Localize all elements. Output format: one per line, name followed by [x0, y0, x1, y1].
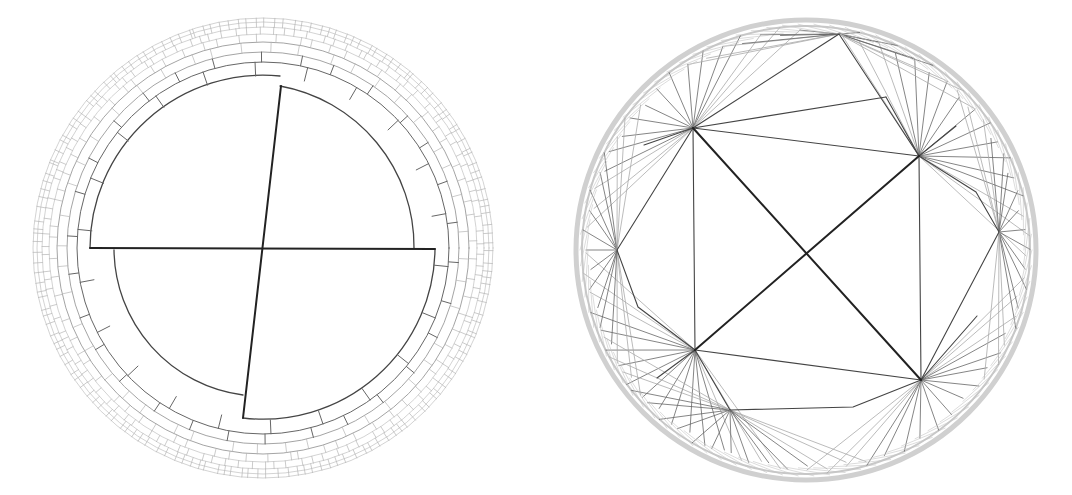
outer-boundary-inner: [582, 26, 1030, 474]
outer-boundary: [576, 20, 1036, 480]
triangulated-disk-diagram: [536, 0, 1072, 495]
triangulated-disk-svg: [536, 0, 1072, 495]
radial-partition-diagram: [0, 0, 536, 495]
main-dividers: [90, 86, 435, 418]
main-diagonals: [693, 128, 921, 380]
radial-partition-svg: [0, 0, 536, 495]
